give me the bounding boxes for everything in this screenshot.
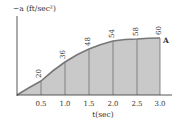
x-tick-label: 2.0 [107,100,118,108]
data-label: 54 [108,29,116,38]
x-tick-label: 1.5 [83,100,94,108]
x-tick-label: 2.5 [131,100,142,108]
data-label: 48 [84,37,92,46]
data-label: 36 [59,50,67,59]
x-axis-label: t(sec) [92,110,113,119]
y-axis-label: −a (ft/sec²) [13,4,56,13]
x-tick-label: 0.5 [35,100,46,108]
data-label: 20 [35,69,43,78]
x-tick-label: 1.0 [59,100,70,108]
data-label: 60 [155,26,163,35]
area-chart: −a (ft/sec²) 20 36 48 54 58 60 A 0.5 1.0… [0,0,187,121]
x-tick-label: 3.0 [154,100,165,108]
point-a-annotation: A [162,36,169,45]
data-label: 58 [132,27,140,36]
